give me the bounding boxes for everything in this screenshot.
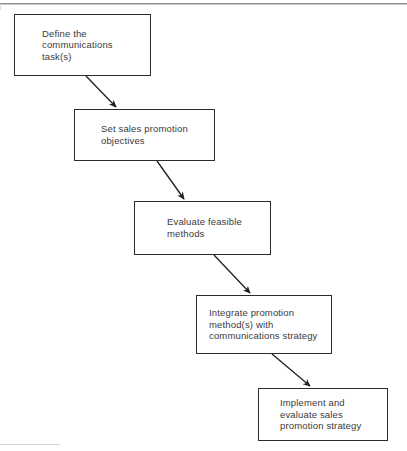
arrow-objectives-to-evaluate — [157, 161, 184, 199]
flow-node-label: Define the communications task(s) — [15, 28, 113, 63]
flow-node-integrate-promotion-methods: Integrate promotion method(s) with commu… — [196, 295, 332, 354]
flow-node-label: Integrate promotion method(s) with commu… — [197, 307, 318, 342]
arrow-integrate-to-implement — [272, 354, 310, 386]
flow-node-label: Implement and evaluate sales promotion s… — [259, 397, 361, 432]
flow-node-set-sales-promotion-objectives: Set sales promotion objectives — [74, 109, 215, 161]
flow-node-label: Evaluate feasible methods — [135, 216, 242, 239]
arrow-define-to-objectives — [86, 76, 116, 107]
flowchart-page: Define the communications task(s) Set sa… — [0, 0, 407, 451]
arrow-evaluate-to-integrate — [214, 255, 250, 293]
flow-node-define-communications-task: Define the communications task(s) — [14, 14, 151, 76]
flow-node-implement-and-evaluate: Implement and evaluate sales promotion s… — [258, 388, 388, 441]
flow-node-evaluate-feasible-methods: Evaluate feasible methods — [134, 201, 271, 255]
flow-node-label: Set sales promotion objectives — [75, 123, 188, 146]
